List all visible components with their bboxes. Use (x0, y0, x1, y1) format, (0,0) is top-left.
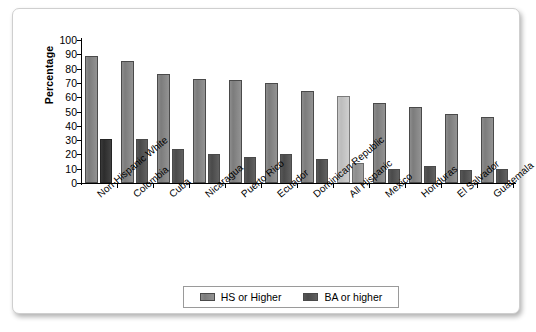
y-tick-mark (77, 126, 81, 127)
bar-hs-or-higher (85, 56, 98, 183)
x-tick-mark (153, 184, 154, 188)
bar-group (301, 40, 337, 183)
bar-group (409, 40, 445, 183)
x-tick-mark (261, 184, 262, 188)
y-tick-label: 90 (47, 49, 77, 59)
y-tick-label: 10 (47, 164, 77, 174)
bar-group (229, 40, 265, 183)
x-tick-mark (297, 184, 298, 188)
y-tick-mark (77, 140, 81, 141)
legend-swatch-hs-icon (200, 293, 215, 301)
y-tick-label: 80 (47, 64, 77, 74)
y-tick-label: 50 (47, 107, 77, 117)
x-tick-mark (513, 184, 514, 188)
bar-group (193, 40, 229, 183)
chart-legend: HS or Higher BA or higher (183, 286, 399, 308)
bar-group (85, 40, 121, 183)
chart-figure-frame: Percentage 1009080706050403020100 Non-Hi… (12, 8, 520, 314)
y-tick-mark (77, 154, 81, 155)
x-tick-mark (225, 184, 226, 188)
legend-label-ba: BA or higher (324, 291, 382, 303)
y-tick-mark (77, 169, 81, 170)
y-tick-mark (77, 183, 81, 184)
y-tick-label: 20 (47, 149, 77, 159)
bar-ba-or-higher (100, 139, 112, 183)
bar-group (481, 40, 517, 183)
y-tick-mark (77, 97, 81, 98)
y-tick-mark (77, 40, 81, 41)
y-tick-mark (77, 112, 81, 113)
x-tick-mark (189, 184, 190, 188)
y-axis-tick-labels: 1009080706050403020100 (43, 40, 77, 183)
bar-group (445, 40, 481, 183)
y-tick-mark (77, 69, 81, 70)
y-tick-label: 60 (47, 92, 77, 102)
x-tick-mark (333, 184, 334, 188)
y-tick-label: 0 (47, 178, 77, 188)
y-tick-mark (77, 54, 81, 55)
legend-swatch-ba-icon (303, 293, 318, 301)
x-tick-mark (369, 184, 370, 188)
bar-group (157, 40, 193, 183)
bar-hs-or-higher (193, 79, 206, 183)
y-tick-mark (77, 83, 81, 84)
legend-label-hs: HS or Higher (221, 291, 282, 303)
bar-hs-or-higher (409, 107, 422, 183)
y-tick-label: 40 (47, 121, 77, 131)
y-tick-label: 30 (47, 135, 77, 145)
y-tick-label: 70 (47, 78, 77, 88)
x-tick-mark (441, 184, 442, 188)
legend-item-hs: HS or Higher (200, 291, 282, 303)
y-tick-label: 100 (47, 35, 77, 45)
x-tick-mark (477, 184, 478, 188)
x-tick-mark (405, 184, 406, 188)
x-tick-mark (117, 184, 118, 188)
legend-item-ba: BA or higher (303, 291, 382, 303)
